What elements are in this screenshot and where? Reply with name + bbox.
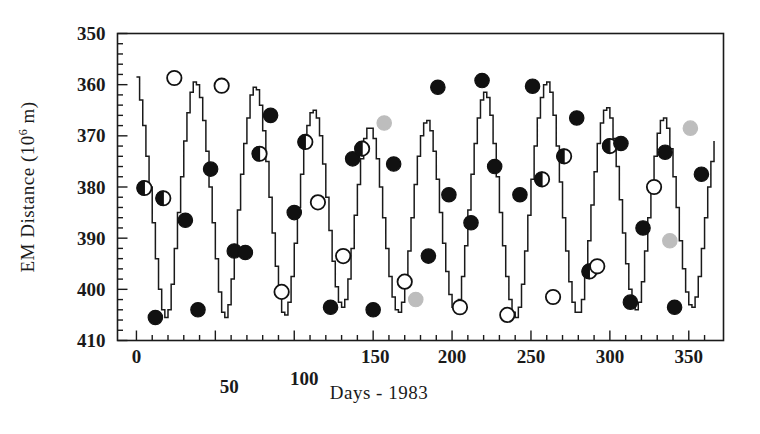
x-tick-label: 250 bbox=[517, 346, 546, 367]
data-point-marker bbox=[570, 111, 584, 125]
y-tick-label: 400 bbox=[77, 279, 106, 300]
data-point-marker bbox=[366, 303, 380, 317]
x-tick-label: 200 bbox=[438, 346, 467, 367]
data-point-marker bbox=[647, 180, 661, 194]
y-tick-label: 350 bbox=[77, 23, 106, 44]
data-point-marker bbox=[137, 181, 151, 195]
data-point-marker bbox=[252, 147, 266, 161]
data-point-marker bbox=[191, 303, 205, 317]
data-point-marker bbox=[513, 187, 527, 201]
x-tick-label: 350 bbox=[675, 346, 704, 367]
x-tick-label: 50 bbox=[220, 376, 239, 397]
data-point-marker bbox=[683, 121, 697, 135]
data-point-marker bbox=[377, 116, 391, 130]
y-tick-label: 410 bbox=[77, 330, 106, 351]
y-tick-label: 380 bbox=[77, 177, 106, 198]
figure-background bbox=[0, 0, 760, 434]
data-point-marker bbox=[421, 249, 435, 263]
chart-svg: 350360370380390400410 050100150200250300… bbox=[0, 0, 760, 434]
data-point-marker bbox=[311, 195, 325, 209]
data-point-marker bbox=[658, 145, 672, 159]
x-tick-label: 150 bbox=[361, 346, 390, 367]
data-point-marker bbox=[274, 285, 288, 299]
data-point-marker bbox=[263, 108, 277, 122]
data-point-marker bbox=[464, 216, 478, 230]
data-point-marker bbox=[214, 78, 228, 92]
y-tick-label: 370 bbox=[77, 125, 106, 146]
data-point-marker bbox=[148, 310, 162, 324]
data-point-marker bbox=[636, 221, 650, 235]
y-axis-title-group: EM Distance (106 m) bbox=[16, 101, 39, 272]
data-point-marker bbox=[535, 172, 549, 186]
data-point-marker bbox=[546, 290, 560, 304]
data-point-marker bbox=[614, 136, 628, 150]
x-axis-title: Days - 1983 bbox=[330, 382, 428, 403]
y-axis-title: EM Distance (106 m) bbox=[16, 101, 39, 272]
x-tick-label: 0 bbox=[132, 346, 142, 367]
data-point-marker bbox=[167, 71, 181, 85]
data-point-marker bbox=[500, 308, 514, 322]
data-point-marker bbox=[442, 187, 456, 201]
data-point-marker bbox=[557, 149, 571, 163]
x-tick-label: 100 bbox=[290, 368, 319, 389]
data-point-marker bbox=[431, 80, 445, 94]
data-point-marker bbox=[409, 292, 423, 306]
data-point-marker bbox=[694, 167, 708, 181]
data-point-marker bbox=[287, 205, 301, 219]
data-point-marker bbox=[355, 141, 369, 155]
data-point-marker bbox=[475, 73, 489, 87]
data-point-marker bbox=[398, 274, 412, 288]
data-point-marker bbox=[156, 191, 170, 205]
data-point-marker bbox=[238, 245, 252, 259]
y-axis-title-main: EM Distance (10 bbox=[17, 135, 39, 272]
data-point-marker bbox=[323, 300, 337, 314]
data-point-marker bbox=[590, 259, 604, 273]
data-point-marker bbox=[203, 162, 217, 176]
data-point-marker bbox=[667, 300, 681, 314]
data-point-marker bbox=[298, 135, 312, 149]
y-axis-title-tail: m) bbox=[17, 101, 39, 128]
x-tick-label: 300 bbox=[596, 346, 625, 367]
data-point-marker bbox=[487, 159, 501, 173]
data-point-marker bbox=[623, 295, 637, 309]
y-tick-label: 390 bbox=[77, 228, 106, 249]
chart-figure: 350360370380390400410 050100150200250300… bbox=[0, 0, 760, 434]
y-tick-label: 360 bbox=[77, 74, 106, 95]
data-point-marker bbox=[336, 249, 350, 263]
data-point-marker bbox=[663, 234, 677, 248]
data-point-marker bbox=[178, 213, 192, 227]
data-point-marker bbox=[525, 79, 539, 93]
data-point-marker bbox=[386, 157, 400, 171]
data-point-marker bbox=[453, 300, 467, 314]
